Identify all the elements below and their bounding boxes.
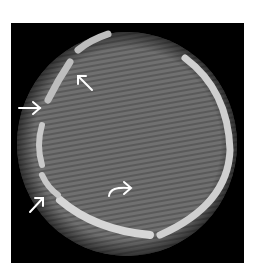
bone-fragment-left-mid: [39, 125, 42, 165]
ct-scan: [0, 0, 256, 275]
skull-edge-shading: [17, 32, 237, 256]
